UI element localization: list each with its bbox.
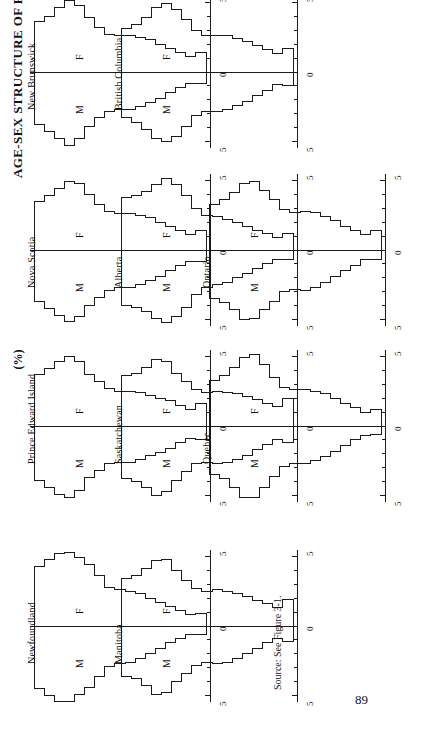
axis-label-male-5: 5: [305, 148, 315, 153]
male-label: M: [74, 105, 85, 114]
pyramid-series-m: [121, 250, 293, 322]
female-label: F: [74, 232, 85, 238]
pyramid-plot: [117, 348, 307, 504]
male-label: M: [161, 283, 172, 292]
pyramid-panel: SaskatchewanFM505: [117, 348, 307, 504]
province-label: Alberta: [113, 257, 124, 288]
pyramid-series-m: [121, 72, 293, 142]
axis-label-zero: 0: [305, 627, 315, 632]
male-label: M: [74, 659, 85, 668]
pyramid-panel: British ColumbiaFM505: [117, 0, 307, 150]
unit-label: (%): [11, 350, 26, 370]
pyramid-series-f: [121, 179, 293, 250]
female-label: F: [74, 408, 85, 414]
male-label: M: [74, 283, 85, 292]
male-label: M: [161, 105, 172, 114]
female-label: F: [161, 608, 172, 614]
axis-label-female-5: 5: [305, 552, 315, 557]
figure-title: AGE-SEX STRUCTURE OF PROVINCIAL POPULATI…: [10, 0, 26, 178]
male-label: M: [161, 459, 172, 468]
province-label: British Columbia: [113, 38, 124, 110]
axis-label-female-5: 5: [305, 352, 315, 357]
axis-label-male-5: 5: [393, 502, 403, 507]
pyramid-panel: AlbertaFM505: [117, 172, 307, 328]
source-note: Source: See Figure 3-1.: [272, 596, 283, 690]
pyramid-series-m: [121, 626, 293, 694]
axis-label-male-5: 5: [305, 326, 315, 331]
province-label: Saskatchewan: [113, 405, 124, 464]
pyramid-series-m: [121, 426, 293, 496]
province-label: Newfoundland: [26, 602, 37, 664]
axis-label-female-5: 5: [305, 0, 315, 2]
axis-label-zero: 0: [393, 251, 403, 256]
figure-page: AGE-SEX STRUCTURE OF PROVINCIAL POPULATI…: [0, 0, 423, 750]
female-label: F: [161, 408, 172, 414]
female-label: F: [74, 54, 85, 60]
axis-label-female-5: 5: [305, 176, 315, 181]
male-label: M: [161, 659, 172, 668]
female-label: F: [161, 54, 172, 60]
province-label: New Brunswick: [26, 43, 37, 110]
male-label: M: [74, 459, 85, 468]
page-number: 89: [355, 692, 368, 708]
pyramid-series-f: [121, 359, 293, 426]
axis-label-male-5: 5: [393, 326, 403, 331]
axis-label-female-5: 5: [393, 352, 403, 357]
pyramid-plot: [117, 0, 307, 150]
pyramid-series-f: [121, 559, 293, 626]
axis-label-zero: 0: [305, 73, 315, 78]
pyramid-series-f: [121, 4, 293, 72]
female-label: F: [74, 608, 85, 614]
province-label: Manitoba: [113, 624, 124, 664]
axis-label-male-5: 5: [305, 502, 315, 507]
axis-label-male-5: 5: [305, 702, 315, 707]
pyramid-plot: [117, 172, 307, 328]
axis-label-zero: 0: [305, 251, 315, 256]
axis-label-female-5: 5: [393, 176, 403, 181]
axis-label-zero: 0: [305, 427, 315, 432]
female-label: F: [161, 232, 172, 238]
axis-label-zero: 0: [393, 427, 403, 432]
province-label: Prince Edward Island: [26, 374, 37, 464]
province-label: Nova Scotia: [26, 237, 37, 288]
